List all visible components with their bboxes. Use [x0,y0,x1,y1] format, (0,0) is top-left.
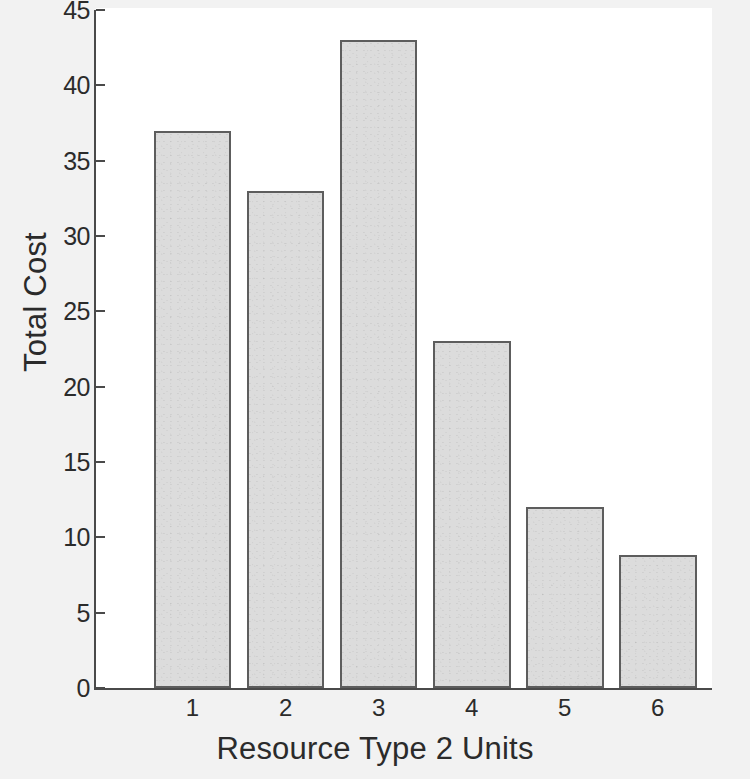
bar-chart-figure: 051015202530354045 123456 Resource Type … [0,0,750,779]
x-axis-line [94,688,712,690]
x-axis-title: Resource Type 2 Units [0,731,750,767]
y-axis-tick-label: 35 [42,146,90,175]
bar [340,40,418,688]
x-axis-tick-label: 2 [279,694,292,722]
x-axis-ticks: 123456 [96,694,712,734]
x-axis-tick-label: 4 [465,694,478,722]
y-axis-tick-label: 5 [42,598,90,627]
y-axis-tick-label: 0 [42,674,90,703]
x-axis-tick-label: 3 [372,694,385,722]
bar [247,191,325,688]
x-axis-tick-label: 5 [558,694,571,722]
bar [619,555,697,688]
bar [154,131,232,688]
x-axis-tick-label: 1 [186,694,199,722]
y-axis-tick-label: 15 [42,448,90,477]
bar [433,341,511,688]
y-axis-title: Total Cost [18,172,54,432]
y-axis-tick-label: 45 [42,0,90,25]
y-axis-tick-label: 10 [42,523,90,552]
x-axis-tick-label: 6 [651,694,664,722]
bar [526,507,604,688]
bars-group [96,10,712,688]
y-axis-tick-label: 40 [42,71,90,100]
